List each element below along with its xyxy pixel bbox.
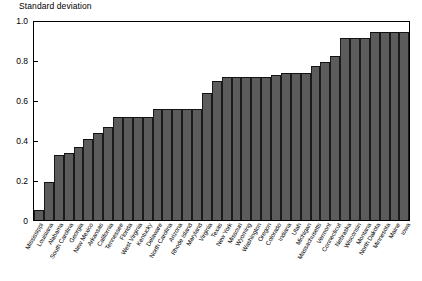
bar	[360, 38, 370, 220]
y-tick-label: 1.0	[0, 17, 28, 26]
bar	[74, 147, 84, 220]
bar	[380, 32, 390, 220]
bar	[301, 73, 311, 220]
bar-chart: Standard deviation 00.20.40.60.81.0 Miss…	[0, 0, 422, 281]
x-axis-labels: MississippiLouisianaAlabamaSouth Carolin…	[33, 222, 410, 281]
bar	[182, 109, 192, 220]
bar	[251, 77, 261, 220]
bar	[133, 117, 143, 220]
plot-inner	[34, 22, 409, 220]
bar	[44, 182, 54, 220]
bar	[370, 32, 380, 220]
bar	[212, 81, 222, 220]
bar	[54, 155, 64, 220]
y-tick-label: 0	[0, 217, 28, 226]
y-tick-label: 0.8	[0, 57, 28, 66]
bar	[281, 73, 291, 220]
bar	[34, 210, 44, 220]
bar	[172, 109, 182, 220]
bar	[261, 77, 271, 220]
bar	[113, 117, 123, 220]
y-tick-label: 0.4	[0, 137, 28, 146]
bar	[162, 109, 172, 220]
bar	[399, 32, 409, 220]
bar	[202, 93, 212, 220]
bar	[320, 62, 330, 220]
bar	[232, 77, 242, 220]
bar	[340, 38, 350, 220]
bar	[93, 133, 103, 220]
bar	[350, 38, 360, 220]
bar	[64, 153, 74, 220]
y-tick-label: 0.6	[0, 97, 28, 106]
bar	[103, 127, 113, 220]
bar	[222, 77, 232, 220]
bars-container	[34, 22, 409, 220]
bar	[311, 66, 321, 220]
bar	[291, 73, 301, 220]
bar	[83, 139, 93, 220]
bar	[153, 109, 163, 220]
bar	[241, 77, 251, 220]
bar	[192, 109, 202, 220]
y-tick-label: 0.2	[0, 177, 28, 186]
bar	[271, 75, 281, 220]
plot-area	[33, 21, 410, 221]
bar	[143, 117, 153, 220]
y-axis-title: Standard deviation	[19, 1, 92, 11]
bar	[390, 32, 400, 220]
bar	[330, 56, 340, 220]
bar	[123, 117, 133, 220]
